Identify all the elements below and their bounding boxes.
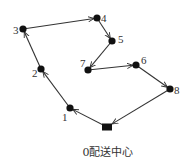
route-edges (23, 18, 170, 127)
customer-node-4 (93, 14, 100, 21)
customer-node-2 (37, 65, 44, 72)
customer-node-8 (166, 85, 173, 92)
node-label-8: 8 (174, 84, 180, 96)
node-label-4: 4 (101, 12, 107, 24)
node-label-6: 6 (141, 54, 147, 66)
route-edge-1-2 (43, 71, 70, 108)
depot-label: 0配送中心 (58, 143, 158, 159)
customer-node-3 (19, 25, 26, 32)
depot-marker (102, 124, 112, 131)
route-edge-2-3 (24, 32, 41, 69)
customer-node-6 (132, 61, 139, 68)
route-edge-3-4 (23, 18, 94, 29)
node-label-1: 1 (62, 111, 68, 123)
node-label-2: 2 (32, 67, 38, 79)
node-label-3: 3 (13, 24, 19, 36)
route-edge-8-0 (112, 89, 170, 124)
route-edge-6-8 (136, 65, 168, 87)
route-edge-7-6 (88, 65, 133, 70)
customer-node-5 (108, 37, 115, 44)
node-label-5: 5 (118, 33, 124, 45)
route-edge-0-1 (73, 109, 107, 127)
route-diagram: 12345678 (0, 0, 190, 162)
route-edge-5-7 (90, 41, 112, 68)
route-nodes: 12345678 (13, 12, 180, 131)
node-label-7: 7 (80, 57, 86, 69)
